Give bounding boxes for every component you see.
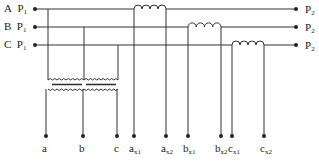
terminal-label-c: c: [114, 143, 119, 154]
terminal-dot-cx2: [262, 134, 266, 138]
terminal-dot-a-p1: [33, 7, 37, 11]
phase-label-a: A P1: [4, 3, 27, 16]
secondary-coil-left: [48, 89, 84, 91]
p2-label-b: P2: [305, 22, 315, 35]
terminal-dot-a: [44, 134, 48, 138]
terminal-label-cx1: cx1: [228, 143, 240, 156]
primary-coil-left: [48, 79, 84, 81]
circuit-diagram: A P1 B P1 C P1 P2 P2 P2 a b c ax1 ax2 bx…: [0, 0, 319, 162]
terminal-dot-b: [81, 134, 85, 138]
terminal-dot-b-p1: [33, 25, 37, 29]
terminal-label-a: a: [42, 143, 47, 154]
terminal-dot-cx1: [230, 134, 234, 138]
coil-c: [232, 41, 264, 45]
terminal-dot-c-p1: [33, 43, 37, 47]
terminal-dot-c: [115, 134, 119, 138]
terminal-dot-ax2: [164, 134, 168, 138]
terminal-dot-bx1: [186, 134, 190, 138]
phase-label-b: B P1: [4, 21, 26, 34]
p2-label-a: P2: [305, 4, 315, 17]
p2-label-c: P2: [305, 40, 315, 53]
terminal-dot-b-p2: [294, 25, 298, 29]
circuit-wiring: [0, 0, 319, 162]
terminal-dot-c-p2: [294, 43, 298, 47]
terminal-label-bx1: bx1: [183, 143, 196, 156]
terminal-dot-ax1: [132, 134, 136, 138]
coil-b: [188, 23, 221, 27]
terminal-dot-bx2: [219, 134, 223, 138]
primary-coil-right: [84, 79, 118, 81]
secondary-coil-right: [84, 89, 118, 91]
terminal-label-b: b: [79, 143, 85, 154]
terminal-label-ax1: ax1: [129, 143, 141, 156]
terminal-dot-a-p2: [294, 7, 298, 11]
coil-a: [134, 5, 166, 9]
terminal-label-bx2: bx2: [215, 143, 228, 156]
terminal-label-cx2: cx2: [260, 143, 272, 156]
phase-label-c: C P1: [4, 39, 26, 52]
terminal-label-ax2: ax2: [161, 143, 173, 156]
